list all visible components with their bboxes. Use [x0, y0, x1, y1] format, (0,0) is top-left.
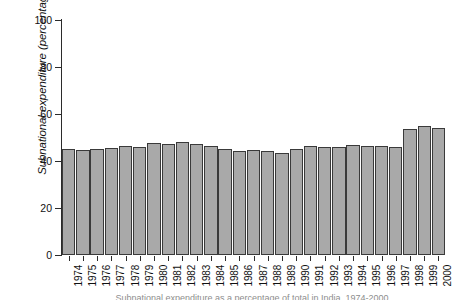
- plot-area: [62, 20, 446, 255]
- x-axis-tick: [140, 256, 141, 261]
- x-axis-tick: [182, 256, 183, 261]
- x-axis-tick: [254, 256, 255, 261]
- bar: [204, 146, 217, 255]
- x-axis-tick-label: 1997: [400, 265, 411, 286]
- x-axis-tick-label: 1988: [272, 265, 283, 286]
- x-axis-tick-label: 1999: [428, 265, 439, 286]
- bar: [389, 147, 402, 255]
- x-axis-tick-label: 1990: [300, 265, 311, 286]
- x-axis-tick: [382, 256, 383, 261]
- bar: [105, 148, 118, 255]
- y-axis-tick: [55, 67, 61, 68]
- x-axis-tick: [154, 256, 155, 261]
- x-axis-tick: [83, 256, 84, 261]
- bar: [90, 149, 103, 255]
- x-axis-tick-label: 1994: [357, 265, 368, 286]
- x-axis-tick-label: 1978: [130, 265, 141, 286]
- bar: [233, 151, 246, 255]
- x-axis-tick-label: 2000: [442, 265, 453, 286]
- bar: [133, 147, 146, 255]
- x-axis-tick: [211, 256, 212, 261]
- bar: [162, 144, 175, 255]
- x-axis-tick: [396, 256, 397, 261]
- bar: [119, 146, 132, 255]
- x-axis-tick-label: 1974: [73, 265, 84, 286]
- x-axis-tick: [97, 256, 98, 261]
- x-axis-tick: [268, 256, 269, 261]
- bar: [190, 144, 203, 255]
- x-axis-tick-label: 1977: [115, 265, 126, 286]
- bar: [304, 146, 317, 255]
- x-axis-tick: [282, 256, 283, 261]
- bar: [432, 128, 445, 255]
- x-axis-tick: [239, 256, 240, 261]
- y-axis-tick-label: 100: [20, 14, 52, 26]
- x-axis-tick: [69, 256, 70, 261]
- x-axis-tick: [225, 256, 226, 261]
- x-axis-tick: [353, 256, 354, 261]
- x-axis-tick: [438, 256, 439, 261]
- y-axis-tick: [55, 255, 61, 256]
- x-axis-tick-label: 1975: [87, 265, 98, 286]
- bar: [361, 146, 374, 255]
- bar: [176, 142, 189, 255]
- y-axis-tick-label: 60: [20, 108, 52, 120]
- x-axis-tick-label: 1976: [101, 265, 112, 286]
- x-axis-tick-label: 1981: [172, 265, 183, 286]
- bar: [275, 153, 288, 255]
- y-axis-tick-label: 40: [20, 155, 52, 167]
- x-axis-tick-label: 1986: [243, 265, 254, 286]
- bar: [375, 146, 388, 255]
- bar: [403, 129, 416, 255]
- x-axis-tick-label: 1983: [201, 265, 212, 286]
- x-axis-tick-label: 1985: [229, 265, 240, 286]
- bar: [261, 151, 274, 255]
- bar: [62, 149, 75, 255]
- bar: [247, 150, 260, 255]
- x-axis-tick-label: 1995: [371, 265, 382, 286]
- bar: [76, 150, 89, 255]
- x-axis-tick: [339, 256, 340, 261]
- y-axis-tick: [55, 161, 61, 162]
- x-axis-tick: [367, 256, 368, 261]
- bar-chart-figure: Subnational expenditure (percentage of t…: [0, 0, 453, 300]
- x-axis-tick: [197, 256, 198, 261]
- y-axis-tick-label: 20: [20, 202, 52, 214]
- y-axis-tick: [55, 208, 61, 209]
- x-axis-tick-label: 1987: [258, 265, 269, 286]
- bar: [332, 147, 345, 255]
- y-axis-tick-label: 0: [20, 249, 52, 261]
- figure-caption: Subnational expenditure as a percentage …: [62, 293, 442, 300]
- x-axis-tick-label: 1992: [329, 265, 340, 286]
- x-axis-tick: [410, 256, 411, 261]
- x-axis-tick: [325, 256, 326, 261]
- x-axis-tick-label: 1979: [144, 265, 155, 286]
- y-axis-tick: [55, 114, 61, 115]
- x-axis-tick: [310, 256, 311, 261]
- bar: [290, 149, 303, 255]
- x-axis-tick-label: 1996: [386, 265, 397, 286]
- x-axis-tick: [111, 256, 112, 261]
- x-axis-tick-label: 1991: [314, 265, 325, 286]
- x-axis-tick-label: 1993: [343, 265, 354, 286]
- x-axis-tick-label: 1982: [186, 265, 197, 286]
- x-axis-tick: [424, 256, 425, 261]
- x-axis-tick-label: 1984: [215, 265, 226, 286]
- x-axis-tick-label: 1989: [286, 265, 297, 286]
- x-axis-tick-label: 1998: [414, 265, 425, 286]
- x-axis-tick: [168, 256, 169, 261]
- y-axis-tick-label: 80: [20, 61, 52, 73]
- y-axis-tick: [55, 20, 61, 21]
- bar: [318, 147, 331, 255]
- bar: [218, 149, 231, 255]
- x-axis-tick: [126, 256, 127, 261]
- x-axis-tick-label: 1980: [158, 265, 169, 286]
- x-axis-tick: [296, 256, 297, 261]
- bar: [147, 143, 160, 255]
- bar: [418, 126, 431, 255]
- bar: [346, 145, 359, 255]
